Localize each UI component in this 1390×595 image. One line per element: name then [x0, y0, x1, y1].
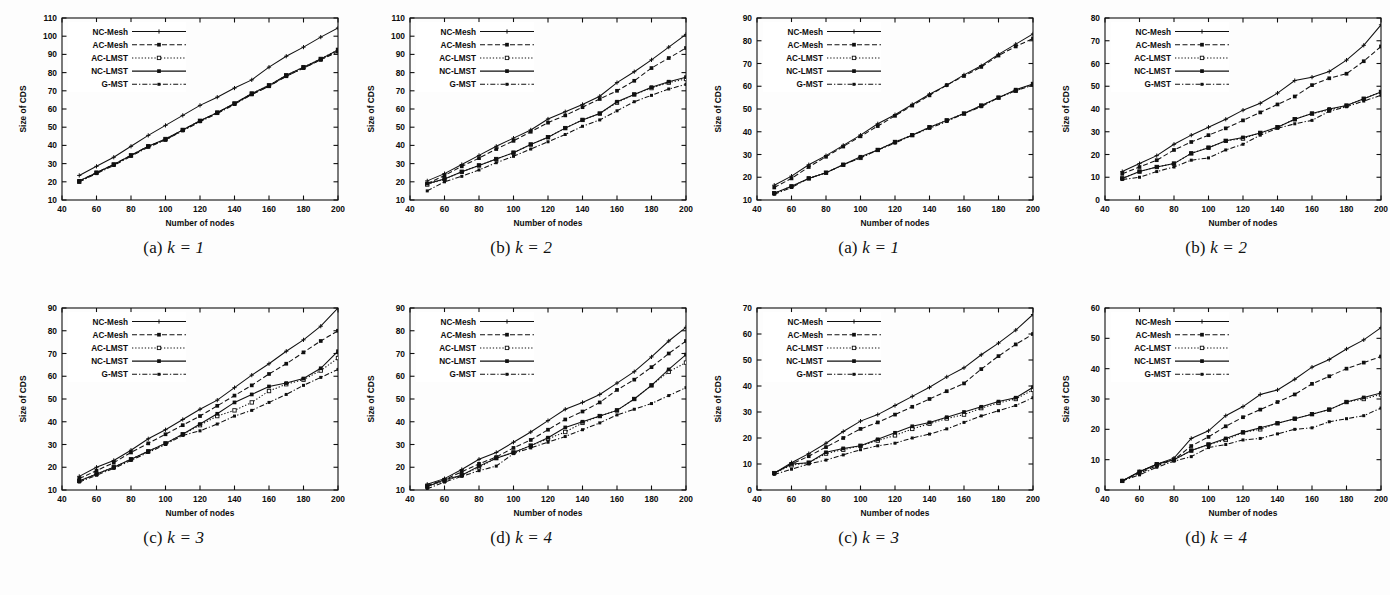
data-point	[477, 168, 480, 171]
plot-chart-7: 406080100120140160180200010203040506070N…	[695, 290, 1043, 538]
legend-label: AC-Mesh	[1135, 331, 1170, 340]
data-point	[632, 378, 636, 382]
data-point	[1189, 133, 1193, 137]
data-point	[632, 79, 636, 83]
data-point	[267, 385, 271, 389]
data-point	[1206, 435, 1210, 439]
data-point	[494, 157, 498, 161]
svg-text:140: 140	[1270, 204, 1284, 214]
svg-text:20: 20	[395, 462, 405, 472]
svg-text:120: 120	[193, 204, 207, 214]
data-point	[876, 148, 879, 151]
data-point	[1224, 148, 1227, 151]
data-point	[94, 164, 98, 168]
data-point	[1206, 133, 1210, 137]
data-point	[78, 180, 81, 183]
data-point	[77, 173, 81, 177]
legend-label: NC-LMST	[1134, 67, 1171, 76]
caption-chart-5: (c) k = 3	[0, 528, 348, 548]
svg-text:40: 40	[395, 417, 405, 427]
svg-text:90: 90	[48, 49, 58, 59]
data-point	[199, 120, 202, 123]
data-point	[112, 467, 115, 470]
data-point	[1014, 396, 1018, 400]
data-point	[1137, 470, 1141, 474]
data-point	[1014, 404, 1017, 407]
data-point	[580, 410, 584, 414]
data-point	[632, 408, 635, 411]
svg-text:200: 200	[331, 204, 345, 214]
data-point	[1031, 332, 1035, 336]
caption-prefix: (a)	[143, 238, 162, 257]
data-point	[772, 186, 776, 190]
data-point	[302, 67, 305, 70]
legend-label: G-MST	[1144, 370, 1170, 379]
data-point	[979, 65, 983, 69]
data-point	[181, 129, 184, 132]
caption-k: k = 2	[1210, 238, 1247, 257]
data-point	[129, 451, 133, 455]
svg-text:20: 20	[395, 177, 405, 187]
data-point	[928, 127, 931, 130]
data-point	[807, 165, 811, 169]
data-point	[233, 394, 237, 398]
data-point	[807, 177, 810, 180]
svg-text:40: 40	[395, 140, 405, 150]
legend-label: NC-Mesh	[788, 318, 823, 327]
svg-text:110: 110	[391, 13, 405, 23]
data-point	[336, 26, 340, 30]
legend-label: NC-Mesh	[788, 28, 823, 37]
data-point	[1309, 75, 1313, 79]
data-point	[859, 448, 862, 451]
data-point	[1241, 438, 1244, 441]
chart-legend: NC-MeshAC-MeshAC-LMSTNC-LMSTG-MST	[68, 312, 186, 382]
data-point	[319, 366, 323, 370]
data-point	[1276, 432, 1279, 435]
data-point	[1223, 126, 1227, 130]
series-line-nc-lmst	[1122, 92, 1381, 178]
svg-text:200: 200	[331, 494, 345, 504]
svg-text:60: 60	[92, 204, 102, 214]
svg-text:40: 40	[405, 494, 415, 504]
svg-text:50: 50	[1090, 81, 1100, 91]
caption-prefix: (a)	[838, 238, 857, 257]
data-point	[790, 468, 793, 471]
data-point	[425, 182, 429, 186]
legend-label: AC-Mesh	[93, 331, 128, 340]
data-point	[1154, 158, 1158, 162]
svg-text:60: 60	[439, 494, 449, 504]
plot-chart-8: 4060801001201401601802000102030405060Num…	[1043, 290, 1390, 538]
plot-chart-3: 4060801001201401601802001020304050607080…	[695, 0, 1043, 248]
svg-text:160: 160	[262, 204, 276, 214]
data-point	[147, 146, 150, 149]
data-point	[684, 75, 688, 79]
y-axis-title: Size of CDS	[366, 85, 376, 132]
data-point	[894, 442, 897, 445]
chart-svg: 4060801001201401601802001020304050607080…	[695, 0, 1043, 248]
data-point	[1120, 479, 1123, 482]
data-point	[1379, 90, 1383, 94]
svg-text:200: 200	[679, 494, 693, 504]
data-point	[563, 426, 567, 430]
svg-text:60: 60	[1090, 303, 1100, 313]
data-point	[859, 427, 863, 431]
caption-chart-7: (c) k = 3	[695, 528, 1043, 548]
svg-text:20: 20	[48, 177, 58, 187]
series-line-ac-lmst	[427, 79, 686, 185]
legend-label: NC-LMST	[91, 67, 128, 76]
legend-label: NC-Mesh	[1135, 318, 1170, 327]
svg-text:80: 80	[395, 68, 405, 78]
svg-text:0: 0	[747, 485, 752, 495]
chart-legend: NC-MeshAC-MeshAC-LMSTNC-LMSTG-MST	[68, 22, 186, 92]
legend-label: G-MST	[102, 80, 128, 89]
svg-text:50: 50	[48, 122, 58, 132]
data-point	[1224, 443, 1227, 446]
svg-text:70: 70	[48, 86, 58, 96]
data-point	[580, 118, 584, 122]
data-point	[580, 400, 584, 404]
data-point	[615, 89, 619, 93]
data-point	[112, 164, 115, 167]
data-point	[285, 75, 288, 78]
svg-text:80: 80	[126, 494, 136, 504]
data-point	[233, 401, 237, 405]
